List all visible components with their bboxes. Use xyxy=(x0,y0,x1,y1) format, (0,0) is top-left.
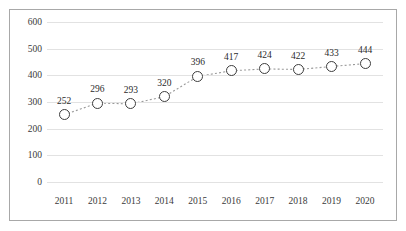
data-point-label: 444 xyxy=(345,45,385,55)
plot-area: 0100200300400500600252201129620122932013… xyxy=(0,0,406,231)
data-point-label: 320 xyxy=(144,78,184,88)
line-chart-figure: 0100200300400500600252201129620122932013… xyxy=(0,0,406,231)
data-point-label: 252 xyxy=(44,96,84,106)
gridline-y-600 xyxy=(47,22,383,23)
y-axis-tick: 300 xyxy=(8,97,42,107)
y-axis-tick: 600 xyxy=(8,17,42,27)
y-axis-tick-label: 200 xyxy=(12,124,42,134)
gridline-y-0 xyxy=(47,182,383,183)
y-axis-tick-label: 100 xyxy=(12,150,42,160)
y-axis-tick: 500 xyxy=(8,44,42,54)
data-point-marker[interactable] xyxy=(92,98,103,109)
gridline-y-200 xyxy=(47,129,383,130)
y-axis-tick: 400 xyxy=(8,70,42,80)
y-axis-tick-label: 0 xyxy=(12,177,42,187)
x-axis-tick-label: 2020 xyxy=(345,196,385,207)
y-axis-tick-label: 600 xyxy=(12,17,42,27)
y-axis-tick: 200 xyxy=(8,124,42,134)
y-axis-tick: 0 xyxy=(8,177,42,187)
data-point-marker[interactable] xyxy=(360,58,371,69)
data-point-marker[interactable] xyxy=(59,109,70,120)
data-point-marker[interactable] xyxy=(226,65,237,76)
data-point-marker[interactable] xyxy=(159,91,170,102)
y-axis-tick-label: 300 xyxy=(12,97,42,107)
gridline-y-100 xyxy=(47,155,383,156)
gridline-y-400 xyxy=(47,75,383,76)
data-point-marker[interactable] xyxy=(293,64,304,75)
y-axis-tick-label: 500 xyxy=(12,44,42,54)
y-axis-tick-label: 400 xyxy=(12,70,42,80)
y-axis-tick: 100 xyxy=(8,150,42,160)
